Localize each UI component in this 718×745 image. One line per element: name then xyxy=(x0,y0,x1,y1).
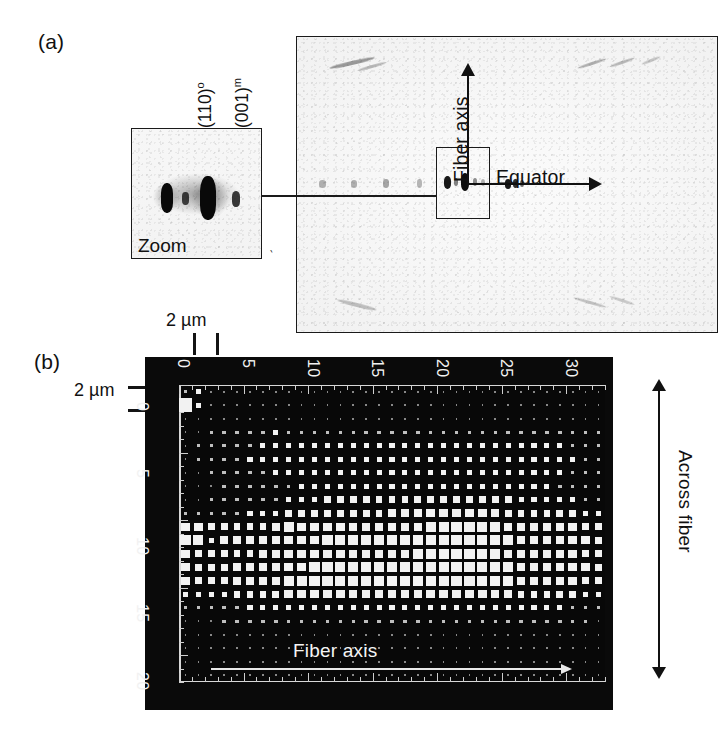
map-tick-y xyxy=(179,480,184,481)
map-cell xyxy=(236,418,238,420)
map-cell xyxy=(377,431,380,434)
map-tick-x xyxy=(295,677,296,682)
map-cell xyxy=(301,391,303,393)
map-cell xyxy=(365,404,367,406)
map-cell xyxy=(532,431,535,434)
map-cell xyxy=(533,647,535,649)
map-ytick-label: 5 xyxy=(133,469,151,478)
map-cell xyxy=(428,443,433,448)
map-tick-y xyxy=(179,682,184,683)
map-cell xyxy=(261,498,264,501)
map-tick-y xyxy=(179,426,184,427)
map-tick-x xyxy=(411,385,412,390)
map-cell xyxy=(222,592,227,597)
map-cell xyxy=(235,431,238,434)
map-cell xyxy=(340,418,342,420)
map-cell xyxy=(543,563,551,571)
map-cell xyxy=(400,576,410,586)
map-cell xyxy=(417,634,419,636)
map-cell xyxy=(314,634,316,636)
map-cell xyxy=(375,550,383,558)
map-cell xyxy=(183,592,188,597)
map-cell xyxy=(361,576,371,586)
map-cell xyxy=(469,404,471,406)
map-cell xyxy=(467,605,472,610)
map-cell xyxy=(312,497,317,502)
map-cell xyxy=(503,535,513,545)
map-cell xyxy=(298,510,305,517)
map-cell xyxy=(451,535,461,545)
map-cell xyxy=(287,431,290,434)
map-cell xyxy=(572,418,574,420)
map-cell xyxy=(507,418,509,420)
map-cell xyxy=(443,634,445,636)
map-cell xyxy=(352,418,354,420)
map-cell xyxy=(426,522,436,532)
map-tick-y xyxy=(179,601,184,602)
map-cell xyxy=(571,485,574,488)
map-cell xyxy=(180,535,190,545)
map-cell xyxy=(310,590,318,598)
map-cell xyxy=(530,550,538,558)
map-cell xyxy=(519,443,524,448)
map-cell xyxy=(312,484,317,489)
map-cell xyxy=(314,418,316,420)
map-cell xyxy=(222,498,225,501)
map-cell xyxy=(480,443,485,448)
map-cell xyxy=(275,418,277,420)
map-cell xyxy=(249,404,251,406)
map-cell xyxy=(391,391,393,393)
map-cell xyxy=(571,620,574,623)
map-cell xyxy=(327,674,329,676)
map-cell xyxy=(299,443,304,448)
map-cell xyxy=(493,457,498,462)
map-cell xyxy=(249,418,251,420)
map-cell xyxy=(198,472,200,474)
map-cell xyxy=(585,391,587,393)
map-cell xyxy=(377,470,382,475)
map-cell xyxy=(221,523,228,530)
map-tick-x xyxy=(553,677,554,682)
map-cell xyxy=(325,470,330,475)
map-cell xyxy=(262,418,264,420)
map-cell xyxy=(260,443,265,448)
map-tick-x xyxy=(295,385,296,390)
map-cell xyxy=(313,620,316,623)
map-cell xyxy=(477,576,487,586)
map-cell xyxy=(248,485,251,488)
map-cell xyxy=(325,457,330,462)
map-cell xyxy=(288,647,290,649)
map-cell xyxy=(415,605,420,610)
map-cell xyxy=(323,523,331,531)
map-tick-x xyxy=(256,385,257,390)
map-cell xyxy=(585,674,587,676)
map-cell xyxy=(299,605,304,610)
map-cell xyxy=(287,620,290,623)
map-cell xyxy=(556,523,564,531)
reflection-label-001m-text: (001) xyxy=(232,87,252,128)
map-cell xyxy=(260,605,265,610)
map-cell xyxy=(595,523,602,530)
map-cell xyxy=(365,634,367,636)
map-cell xyxy=(482,661,484,663)
map-cell xyxy=(441,457,446,462)
reflection-label-001m-sup: m xyxy=(231,78,243,87)
map-cell xyxy=(181,577,189,585)
map-cell xyxy=(288,661,290,663)
map-cell xyxy=(581,536,589,544)
map-cell xyxy=(249,634,251,636)
reflection-label-110o-text: (110) xyxy=(195,88,215,128)
map-tick-x xyxy=(386,677,387,682)
map-cell xyxy=(452,590,460,598)
map-cell xyxy=(363,510,370,517)
map-cell xyxy=(456,404,458,406)
map-cell xyxy=(584,431,587,434)
map-tick-x xyxy=(489,385,490,390)
map-tick-x xyxy=(347,677,348,682)
map-cell xyxy=(595,550,602,557)
map-cell xyxy=(185,431,187,433)
map-cell xyxy=(413,549,423,559)
map-cell xyxy=(364,620,367,623)
reflection-label-001m: (001)m xyxy=(231,78,253,128)
map-cell xyxy=(364,431,367,434)
